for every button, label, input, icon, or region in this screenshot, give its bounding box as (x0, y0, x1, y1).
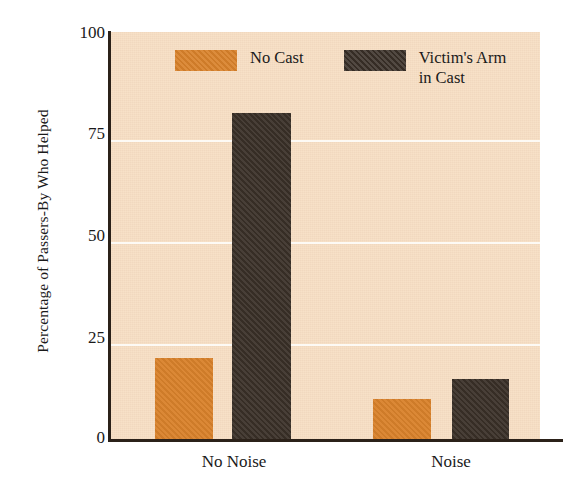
y-axis-line (108, 31, 111, 442)
bar-noise-victim-arm-in-cast (452, 379, 509, 440)
y-tick-label-0: 0 (53, 428, 105, 448)
y-tick-label-25: 25 (53, 328, 105, 348)
legend-label-victim-arm-in-cast: Victim's Arm in Cast (419, 48, 507, 88)
bar-chart-figure: Percentage of Passers-By Who Helped 100 … (0, 0, 573, 500)
x-axis-line (108, 439, 563, 442)
x-tick-label-no-noise: No Noise (202, 452, 267, 472)
legend-entry-no-cast: No Cast (175, 48, 304, 71)
y-axis-tick-labels: 100 75 50 25 0 (50, 0, 105, 500)
gridline-25 (111, 344, 540, 346)
gridline-50 (111, 242, 540, 244)
legend-label-line-2: in Cast (419, 68, 465, 87)
x-tick-label-noise: Noise (431, 452, 471, 472)
plot-area: No Cast Victim's Arm in Cast (111, 32, 540, 440)
chart-legend: No Cast Victim's Arm in Cast (175, 48, 506, 88)
legend-label-no-cast: No Cast (250, 48, 304, 68)
gridline-75 (111, 140, 540, 142)
bar-noise-no-cast (373, 399, 431, 440)
legend-entry-victim-arm-in-cast: Victim's Arm in Cast (344, 48, 507, 88)
y-tick-label-100: 100 (53, 23, 105, 43)
legend-label-line-1: Victim's Arm (419, 48, 507, 67)
y-tick-label-50: 50 (53, 226, 105, 246)
bar-no-noise-no-cast (155, 358, 213, 440)
y-tick-label-75: 75 (53, 124, 105, 144)
bar-no-noise-victim-arm-in-cast (232, 113, 291, 440)
legend-swatch-victim-arm-in-cast (344, 50, 406, 71)
legend-swatch-no-cast (175, 50, 237, 71)
